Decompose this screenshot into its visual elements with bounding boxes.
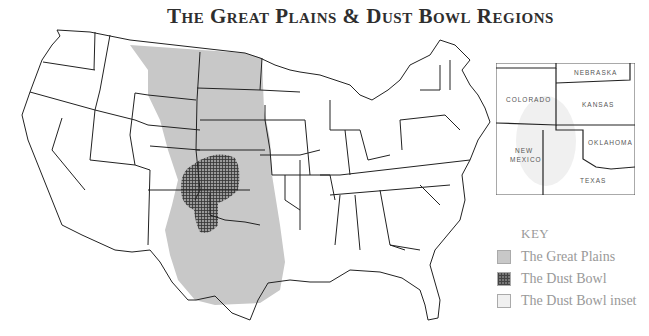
- dust-bowl-inset-map: NEBRASKA COLORADO KANSAS OKLAHOMA NEW ME…: [496, 63, 635, 195]
- key-title: KEY: [521, 226, 637, 242]
- key-item-dust-bowl: The Dust Bowl: [497, 268, 637, 290]
- inset-label-new: NEW: [515, 147, 533, 154]
- inset-map-svg: [496, 63, 635, 195]
- inset-label-oklahoma: OKLAHOMA: [588, 139, 633, 146]
- inset-label-mexico: MEXICO: [510, 156, 542, 163]
- dust-bowl-swatch-icon: [497, 272, 511, 286]
- dust-bowl-inset-swatch-icon: [497, 294, 511, 308]
- key-label: The Great Plains: [521, 249, 615, 265]
- map-key: KEY The Great Plains The Dust Bowl The D…: [497, 226, 637, 312]
- inset-label-nebraska: NEBRASKA: [574, 69, 617, 76]
- key-item-dust-bowl-inset: The Dust Bowl inset: [497, 290, 637, 312]
- key-label: The Dust Bowl inset: [521, 293, 637, 309]
- key-label: The Dust Bowl: [521, 271, 607, 287]
- key-item-great-plains: The Great Plains: [497, 246, 637, 268]
- great-plains-swatch-icon: [497, 250, 511, 264]
- inset-label-colorado: COLORADO: [506, 96, 551, 103]
- inset-label-texas: TEXAS: [580, 177, 606, 184]
- inset-label-kansas: KANSAS: [582, 101, 614, 108]
